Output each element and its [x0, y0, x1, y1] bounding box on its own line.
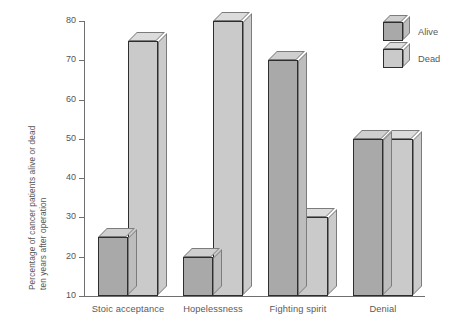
tick-mark: [79, 60, 84, 61]
cube-icon: [383, 22, 403, 41]
tick-mark: [79, 21, 84, 22]
legend: Alive Dead: [383, 17, 449, 71]
tick-label: 70: [66, 54, 76, 64]
tick-label: 60: [66, 94, 76, 104]
legend-item-dead: Dead: [383, 44, 449, 71]
y-axis-title-line-1: Percentage of cancer patients alive or d…: [27, 126, 38, 290]
tick-mark: [79, 139, 84, 140]
tick-label: 80: [66, 15, 76, 25]
tick-mark: [79, 257, 84, 258]
y-axis-line: [84, 21, 85, 297]
x-label-denial: Denial: [323, 304, 443, 314]
tick-label: 20: [66, 251, 76, 261]
bar-alive-denial: [353, 139, 383, 296]
y-axis-title-line-2: ten years after operation: [38, 197, 49, 290]
bar-side-face: [383, 131, 392, 295]
tick-mark: [79, 100, 84, 101]
legend-label-dead: Dead: [418, 54, 440, 64]
bar-side-face: [328, 209, 337, 295]
bar-side-face: [158, 33, 167, 295]
bar-side-face: [298, 52, 307, 295]
bar-chart: Percentage of cancer patients alive or d…: [0, 0, 449, 332]
tick-label: 50: [66, 133, 76, 143]
tick-label: 30: [66, 211, 76, 221]
legend-label-alive: Alive: [418, 27, 438, 37]
x-axis-line: [84, 296, 425, 297]
bar-side-face: [243, 13, 252, 295]
tick-mark: [79, 217, 84, 218]
cube-icon: [383, 49, 403, 68]
legend-item-alive: Alive: [383, 17, 449, 44]
bar-side-face: [128, 229, 137, 295]
bar-side-face: [413, 131, 422, 295]
bar-alive-stoic-acceptance: [98, 237, 128, 296]
bar-alive-fighting-spirit: [268, 60, 298, 296]
tick-mark: [79, 296, 84, 297]
tick-label: 40: [66, 172, 76, 182]
tick-mark: [79, 178, 84, 179]
tick-label: 10: [66, 290, 76, 300]
y-axis-title: Percentage of cancer patients alive or d…: [0, 0, 62, 300]
bar-alive-hopelessness: [183, 257, 213, 296]
plot-area: 8070605040302010 Stoic acceptanceHopeles…: [84, 21, 425, 296]
